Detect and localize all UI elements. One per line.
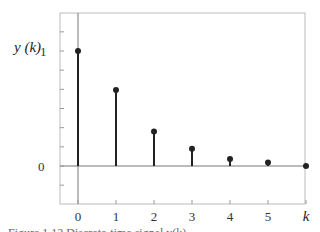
- plot-frame: [60, 13, 305, 204]
- stem-plot: y (k) 1 0 012345k: [0, 0, 320, 232]
- stem-marker: [75, 48, 81, 54]
- stem-marker: [265, 160, 271, 166]
- stems: [75, 48, 309, 169]
- y-axis-label: y (k): [12, 39, 41, 56]
- x-tick-label: 0: [75, 209, 82, 224]
- x-tick-label: 2: [151, 209, 158, 224]
- x-tick-label: k: [303, 208, 310, 224]
- stem-marker: [151, 129, 157, 135]
- x-ticks: [78, 200, 306, 204]
- x-tick-label: 3: [189, 209, 196, 224]
- x-tick-label: 5: [265, 209, 272, 224]
- y-tick-label-0: 0: [38, 159, 45, 174]
- figure-caption: Figure 1.12 Discrete-time signal y(k): [8, 226, 186, 232]
- stem-marker: [113, 87, 119, 93]
- stem-marker: [227, 156, 233, 162]
- x-tick-label: 1: [113, 209, 120, 224]
- x-tick-label: 4: [227, 209, 234, 224]
- stem-marker: [303, 163, 309, 169]
- stem-marker: [189, 146, 195, 152]
- y-ticks: [60, 32, 64, 185]
- x-tick-labels: 012345k: [75, 208, 310, 224]
- y-tick-label-1: 1: [40, 44, 47, 59]
